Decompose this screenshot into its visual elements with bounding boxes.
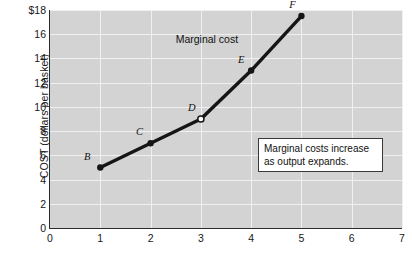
point-label-c: C <box>136 126 143 137</box>
data-point-c <box>147 140 153 146</box>
marginal-cost-chart: COST (dollars per basket) $1816141210864… <box>0 0 412 258</box>
callout-line-2: as output expands. <box>264 156 377 169</box>
y-axis-tick-label: 2 <box>4 198 50 210</box>
x-axis-tick-label: 7 <box>399 232 405 244</box>
y-axis-tick-label: 12 <box>4 77 50 89</box>
y-axis-tick-label: $18 <box>4 4 50 16</box>
y-axis-tick-label: 10 <box>4 101 50 113</box>
point-label-d: D <box>188 102 196 113</box>
gridline-vertical <box>402 10 403 228</box>
x-axis-tick-label: 6 <box>349 232 355 244</box>
series-inline-label: Marginal cost <box>176 33 238 45</box>
data-point-f <box>298 13 304 19</box>
data-point-e <box>248 67 254 73</box>
x-axis-tick-label: 4 <box>248 232 254 244</box>
y-axis-tick-label: 0 <box>4 222 50 234</box>
point-label-f: F <box>289 0 295 10</box>
y-axis-tick-label: 16 <box>4 28 50 40</box>
x-axis-tick-label: 2 <box>148 232 154 244</box>
callout-annotation: Marginal costs increaseas output expands… <box>258 138 383 172</box>
y-axis-tick-label: 8 <box>4 125 50 137</box>
x-axis-tick-label: 0 <box>47 232 53 244</box>
x-axis-tick-label: 5 <box>299 232 305 244</box>
y-axis-tick-label: 4 <box>4 174 50 186</box>
data-point-b <box>97 164 103 170</box>
data-point-d <box>198 116 204 122</box>
y-axis-tick-label: 6 <box>4 149 50 161</box>
x-axis-tick-label: 1 <box>97 232 103 244</box>
callout-line-1: Marginal costs increase <box>264 143 377 156</box>
y-axis-tick-label: 14 <box>4 52 50 64</box>
y-axis-tick-labels: $181614121086420 <box>0 0 50 258</box>
y-axis-line <box>49 10 50 229</box>
x-axis-line <box>49 228 402 229</box>
point-label-e: E <box>238 53 244 64</box>
point-label-b: B <box>84 151 90 162</box>
x-axis-tick-label: 3 <box>198 232 204 244</box>
